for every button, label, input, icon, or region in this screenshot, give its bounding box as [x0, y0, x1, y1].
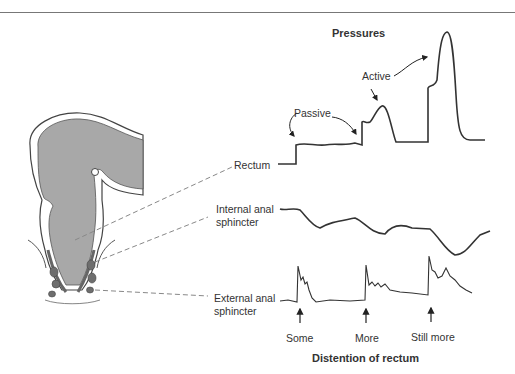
active-label: Active: [362, 70, 391, 83]
active-arrow-2: [394, 57, 427, 76]
internal-sphincter-label-line2: sphincter: [216, 216, 259, 229]
internal-sphincter-label-line1: Internal anal: [216, 203, 274, 216]
rectum-label: Rectum: [234, 159, 270, 172]
active-arrow-1: [371, 89, 377, 100]
external-sphincter-trace: [280, 256, 472, 302]
internal-sphincter-trace: [280, 209, 490, 255]
rectum-pressure-trace: [278, 32, 485, 164]
stimulus-label-still-more: Still more: [411, 331, 455, 344]
passive-label: Passive: [294, 107, 331, 120]
rectum-anatomy-illustration: [28, 113, 143, 304]
distention-title: Distention of rectum: [312, 352, 419, 365]
stimulus-label-some: Some: [286, 332, 313, 345]
passive-arrow-2: [332, 117, 356, 134]
external-sphincter-label-line2: sphincter: [214, 305, 257, 318]
stimulus-label-more: More: [355, 332, 379, 345]
pressures-title: Pressures: [332, 27, 385, 40]
diagram-canvas: [0, 0, 515, 374]
external-sphincter-label-line1: External anal: [214, 292, 275, 305]
